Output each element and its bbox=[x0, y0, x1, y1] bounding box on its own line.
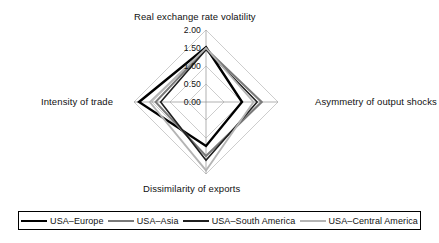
legend-item-label: USA–Europe bbox=[50, 216, 104, 226]
legend-item[interactable]: USA–South America bbox=[182, 216, 297, 226]
legend-item[interactable]: USA–Europe bbox=[20, 216, 105, 226]
legend-item[interactable]: USA–Asia bbox=[107, 216, 180, 226]
axis-label-intensity-of-trade: Intensity of trade bbox=[41, 96, 113, 107]
axis-label-asymmetry-of-output-shocks: Asymmetry of output shocks bbox=[315, 96, 437, 107]
radial-tick-label: 1.00 bbox=[173, 61, 201, 71]
legend-line-swatch-icon bbox=[183, 220, 209, 222]
radar-plot-area bbox=[0, 0, 439, 243]
radar-chart-figure: Real exchange rate volatility Asymmetry … bbox=[0, 0, 439, 243]
legend-item[interactable]: USA–Central America bbox=[299, 216, 419, 226]
radial-tick-label: 0.50 bbox=[173, 79, 201, 89]
legend-item-label: USA–Asia bbox=[137, 216, 179, 226]
legend-line-swatch-icon bbox=[108, 220, 134, 222]
legend-item-label: USA–South America bbox=[212, 216, 296, 226]
axis-label-real-exchange-rate-volatility: Real exchange rate volatility bbox=[134, 11, 256, 22]
axis-label-dissimilarity-of-exports: Dissimilarity of exports bbox=[143, 183, 240, 194]
chart-legend: USA–EuropeUSA–AsiaUSA–South AmericaUSA–C… bbox=[18, 211, 421, 230]
legend-line-swatch-icon bbox=[21, 220, 47, 222]
legend-item-label: USA–Central America bbox=[329, 216, 418, 226]
radial-tick-label: 1.50 bbox=[173, 43, 201, 53]
radial-tick-label: 0.00 bbox=[173, 97, 201, 107]
radial-tick-label: 2.00 bbox=[173, 25, 201, 35]
legend-line-swatch-icon bbox=[300, 220, 326, 222]
